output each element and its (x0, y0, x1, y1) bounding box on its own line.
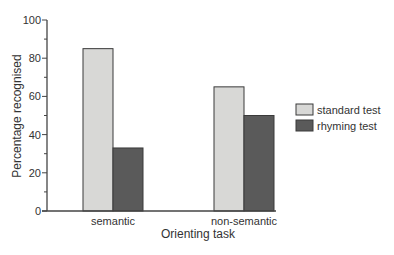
y-tick-label: 40 (29, 129, 41, 141)
x-axis-title: Orienting task (161, 227, 236, 241)
x-category-label: semantic (91, 215, 136, 227)
legend-swatch (296, 120, 313, 131)
y-tick-label: 0 (35, 205, 41, 217)
x-category-label: non-semantic (211, 215, 278, 227)
legend-label: rhyming test (317, 120, 377, 132)
y-axis-title: Percentage recognised (10, 54, 24, 177)
bar-rhyming-test-non-semantic (244, 116, 274, 212)
bar-standard-test-non-semantic (214, 87, 244, 211)
bar-rhyming-test-semantic (113, 148, 143, 211)
y-tick-label: 60 (29, 90, 41, 102)
legend-swatch (296, 104, 313, 115)
x-axis: semanticnon-semantic (42, 211, 278, 227)
y-tick-label: 100 (23, 14, 41, 26)
y-tick-label: 80 (29, 52, 41, 64)
legend: standard testrhyming test (296, 104, 381, 132)
legend-label: standard test (317, 104, 381, 116)
y-tick-label: 20 (29, 167, 41, 179)
bar-chart: 020406080100 semanticnon-semantic Orient… (0, 0, 394, 255)
bar-standard-test-semantic (83, 49, 113, 211)
bars (83, 49, 274, 211)
y-axis: 020406080100 (23, 14, 47, 217)
